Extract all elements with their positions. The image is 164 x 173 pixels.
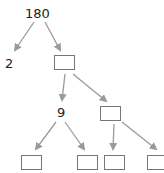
edge-180-to-2 — [15, 22, 34, 50]
blank-answer-box-6[interactable] — [147, 155, 164, 170]
blank-answer-box-5[interactable] — [104, 155, 125, 170]
edge-9-to-box4 — [65, 122, 84, 149]
blank-answer-box-3[interactable] — [21, 155, 42, 170]
edge-box2-to-box6 — [122, 122, 156, 149]
edge-box1-to-box2 — [73, 74, 106, 101]
factor-9-label: 9 — [57, 106, 65, 119]
edge-box2-to-box5 — [113, 124, 114, 149]
blank-answer-box-1[interactable] — [54, 55, 75, 70]
blank-answer-box-2[interactable] — [100, 106, 121, 121]
edge-9-to-box3 — [36, 122, 56, 149]
edge-box1-to-9 — [62, 74, 65, 100]
blank-answer-box-4[interactable] — [77, 155, 98, 170]
arrow-layer — [0, 0, 164, 173]
factor-tree-diagram: 180 2 9 — [0, 0, 164, 173]
edge-180-to-box1 — [45, 22, 60, 50]
root-number-label: 180 — [25, 7, 50, 20]
factor-2-label: 2 — [5, 57, 13, 70]
